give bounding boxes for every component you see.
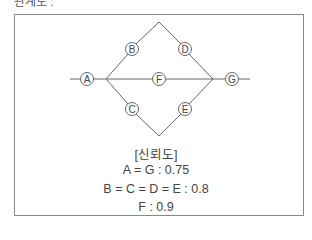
node-b: B [126,43,139,56]
svg-text:A: A [84,74,91,85]
svg-text:G: G [228,74,236,85]
legend-line-bcde: B = C = D = E : 0.8 [0,182,312,196]
node-c: C [126,103,139,116]
legend-line-ag: A = G : 0.75 [0,163,312,177]
svg-text:B: B [129,44,136,55]
legend-line-f: F : 0.9 [0,200,312,214]
svg-text:D: D [181,44,188,55]
node-a: A [81,73,94,86]
svg-text:E: E [182,104,189,115]
node-d: D [179,43,192,56]
node-e: E [179,103,192,116]
node-f: F [153,73,166,86]
svg-text:C: C [128,104,135,115]
svg-text:F: F [156,74,162,85]
legend-title: [신뢰도] [0,144,312,163]
node-g: G [226,73,239,86]
